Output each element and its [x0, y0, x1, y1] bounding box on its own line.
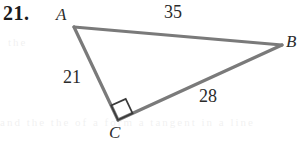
triangle-sides	[74, 27, 282, 120]
problem-number: 21.	[3, 2, 30, 25]
vertex-label-c: C	[109, 123, 120, 143]
side-ab-line	[74, 27, 282, 45]
figure-canvas: the and the the of a form a tangent in a…	[0, 0, 303, 144]
side-cb-line	[118, 45, 282, 120]
side-length-cb: 28	[199, 86, 217, 107]
side-length-ac: 21	[63, 67, 81, 88]
side-length-ab: 35	[164, 2, 182, 23]
triangle-diagram	[0, 0, 303, 144]
vertex-label-a: A	[56, 5, 66, 25]
vertex-label-b: B	[286, 32, 296, 52]
